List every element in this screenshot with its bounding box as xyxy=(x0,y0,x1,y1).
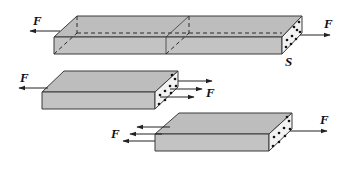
stress-diagram: F F S F F xyxy=(0,0,343,170)
bottom-bar-top-face xyxy=(155,113,292,134)
middle-left-force-label: F xyxy=(19,70,29,85)
bottom-right-force-label: F xyxy=(319,112,329,127)
top-left-force-label: F xyxy=(32,13,42,28)
middle-bar-front-face xyxy=(42,92,155,109)
top-bar-front-face xyxy=(54,37,282,54)
top-right-force-label: F xyxy=(323,16,333,31)
bottom-left-force-label: F xyxy=(110,126,120,141)
bottom-bar-front-face xyxy=(155,134,269,151)
middle-bar-top-face xyxy=(42,71,178,92)
section-label: S xyxy=(285,54,292,69)
middle-bar: F F xyxy=(19,70,215,109)
middle-right-force-label: F xyxy=(205,85,215,100)
top-bar: F F S xyxy=(30,13,333,69)
bottom-bar: F F xyxy=(110,112,329,151)
